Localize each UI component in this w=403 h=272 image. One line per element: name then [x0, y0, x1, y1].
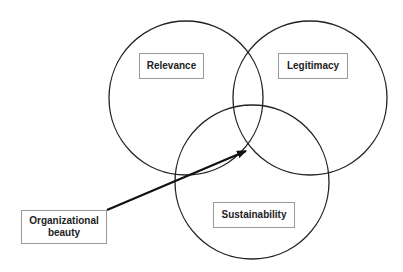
legitimacy-label: Legitimacy: [278, 53, 348, 79]
sustainability-label: Sustainability: [213, 202, 295, 228]
relevance-circle: [109, 21, 263, 175]
organizational-beauty-label: Organizational beauty: [21, 210, 107, 244]
sustainability-text: Sustainability: [221, 209, 286, 221]
sustainability-circle: [175, 105, 329, 259]
legitimacy-text: Legitimacy: [287, 60, 339, 72]
relevance-label: Relevance: [139, 53, 204, 79]
legitimacy-circle: [233, 21, 387, 175]
relevance-text: Relevance: [147, 60, 196, 72]
organizational-beauty-text: Organizational beauty: [28, 215, 100, 239]
